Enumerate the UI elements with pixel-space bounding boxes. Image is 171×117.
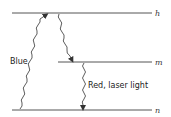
energy-level-diagram: h m n Blue Red, laser light [0, 0, 171, 117]
h-to-m-transition-arrow [58, 14, 72, 60]
level-h-label: h [155, 9, 160, 18]
level-m-label: m [155, 58, 163, 67]
blue-label: Blue [10, 57, 28, 66]
red-laser-label: Red, laser light [88, 81, 148, 90]
red-transition-arrow [82, 63, 85, 108]
level-n-label: n [155, 106, 160, 115]
